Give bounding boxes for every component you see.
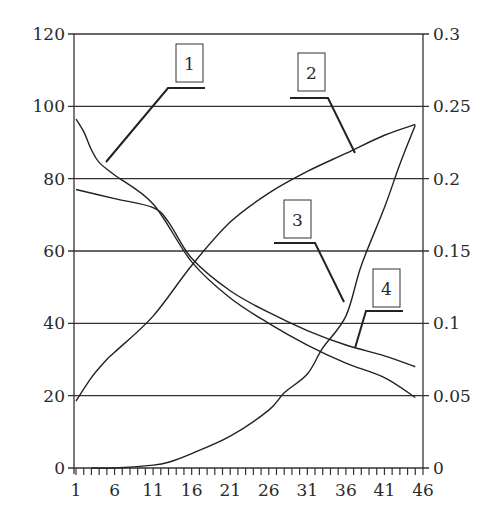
y-tick-label: 60 [43,241,65,261]
series-3-line [76,190,415,367]
y2-tick-label: 0.15 [433,241,471,261]
x-tick-label: 16 [181,480,203,500]
horizontal-gridlines [68,34,429,396]
callout-2: 2 [290,53,355,153]
left-y-axis-tick-labels: 020406080100120 [33,24,65,478]
y2-tick-label: 0 [433,458,444,478]
y2-tick-label: 0.2 [433,169,460,189]
x-tick-label: 6 [109,480,120,500]
x-tick-label: 36 [335,480,357,500]
y2-tick-label: 0.25 [433,96,471,116]
callout-label-2: 2 [306,63,317,83]
x-tick-label: 21 [219,480,241,500]
axes [68,34,429,474]
y-tick-label: 100 [33,96,65,116]
y-tick-label: 40 [43,313,65,333]
x-tick-label: 46 [412,480,434,500]
callout-label-3: 3 [292,210,303,230]
y2-tick-label: 0.1 [433,313,460,333]
x-tick-label: 31 [297,480,319,500]
callout-label-1: 1 [184,54,195,74]
y-tick-label: 0 [54,458,65,478]
x-tick-label: 26 [258,480,280,500]
callout-4: 4 [355,269,403,348]
x-tick-label: 1 [71,480,82,500]
y-tick-label: 120 [33,24,65,44]
series-2-line [76,124,415,401]
callout-1: 1 [106,44,205,162]
series-4-line [91,125,415,468]
dual-axis-line-chart: 020406080100120 00.050.10.150.20.250.3 1… [0,0,497,528]
x-tick-label: 11 [142,480,164,500]
x-axis-ticks: 161116212631364146 [71,468,434,500]
y2-tick-label: 0.3 [433,24,460,44]
x-tick-label: 41 [374,480,396,500]
data-series [76,119,415,468]
callout-label-4: 4 [381,279,392,299]
right-y-axis-tick-labels: 00.050.10.150.20.250.3 [433,24,471,478]
y-tick-label: 20 [43,386,65,406]
y-tick-label: 80 [43,169,65,189]
y2-tick-label: 0.05 [433,386,471,406]
